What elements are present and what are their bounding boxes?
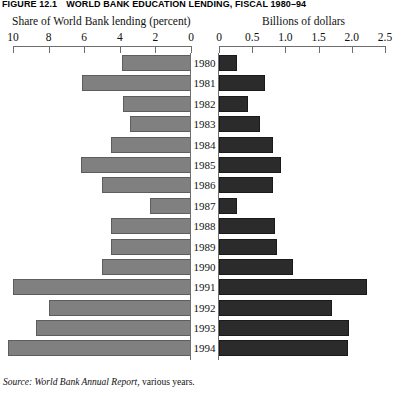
left-axis-tick [155,46,156,53]
bar-left-share-percent [111,239,191,255]
chart-row: 1993 [0,318,404,338]
chart-row: 1982 [0,94,404,114]
chart-row: 1984 [0,135,404,155]
left-axis-tick [191,46,192,53]
right-axis-tick [219,46,220,53]
bar-left-share-percent [81,157,191,173]
year-column-right-border [218,53,219,360]
bar-right-billions-of-dollars [219,75,265,91]
year-label: 1986 [190,175,219,195]
bar-right-billions-of-dollars [219,96,248,112]
bar-left-share-percent [82,75,191,91]
bar-right-billions-of-dollars [219,137,273,153]
chart-row: 1983 [0,114,404,134]
right-axis-tick [285,46,286,53]
bar-right-billions-of-dollars [219,177,273,193]
bar-left-share-percent [13,279,191,295]
left-axis-line [13,46,191,47]
bar-left-share-percent [130,116,191,132]
year-label: 1981 [190,73,219,93]
bar-right-billions-of-dollars [219,198,237,214]
bar-left-share-percent [102,259,191,275]
chart-row: 1985 [0,155,404,175]
bar-left-share-percent [122,55,191,71]
figure-title: FIGURE 12.1WORLD BANK EDUCATION LENDING,… [2,0,402,10]
right-axis-tick-label: 1.5 [311,30,325,44]
year-label: 1980 [190,53,219,73]
chart-row: 1981 [0,73,404,93]
source-note: Source: World Bank Annual Report, variou… [3,376,195,388]
year-column-left-border [190,53,191,360]
bar-right-billions-of-dollars [219,300,332,316]
year-label: 1987 [190,196,219,216]
bar-right-billions-of-dollars [219,279,367,295]
right-axis-tick-label: 2.5 [378,30,392,44]
right-panel-header: Billions of dollars [262,14,345,28]
bar-right-billions-of-dollars [219,259,293,275]
year-label: 1991 [190,277,219,297]
chart-row: 1992 [0,298,404,318]
chart-row: 1988 [0,216,404,236]
bar-left-share-percent [102,177,191,193]
bar-right-billions-of-dollars [219,157,281,173]
chart-row: 1986 [0,175,404,195]
right-axis-line [219,46,385,47]
right-axis-tick-label: 0 [216,30,222,44]
year-label: 1993 [190,318,219,338]
source-label: Source: [3,377,32,387]
year-label: 1992 [190,298,219,318]
left-axis-tick [84,46,85,53]
source-detail: , various years. [137,377,195,387]
right-axis-tick-label: 1.0 [278,30,292,44]
year-label: 1994 [190,338,219,358]
bar-right-billions-of-dollars [219,116,260,132]
left-axis-tick [13,46,14,53]
chart-row: 1989 [0,237,404,257]
right-axis-tick [319,46,320,53]
right-axis-tick [252,46,253,53]
right-axis-tick-labels: 00.51.01.52.02.5 [0,30,404,44]
year-label: 1984 [190,135,219,155]
bar-right-billions-of-dollars [219,320,349,336]
bar-right-billions-of-dollars [219,218,275,234]
chart-plot-area: 1980198119821983198419851986198719881989… [0,53,404,360]
bar-left-share-percent [8,340,191,356]
left-panel-header: Share of World Bank lending (percent) [12,14,191,28]
year-label: 1983 [190,114,219,134]
right-axis-tick [352,46,353,53]
bar-right-billions-of-dollars [219,55,237,71]
figure-number: FIGURE 12.1 [2,0,57,9]
bar-left-share-percent [36,320,191,336]
year-label: 1985 [190,155,219,175]
chart-row: 1991 [0,277,404,297]
right-axis-tick [385,46,386,53]
chart-row: 1990 [0,257,404,277]
chart-row: 1980 [0,53,404,73]
bar-left-share-percent [111,218,191,234]
year-label: 1989 [190,237,219,257]
figure-title-text: WORLD BANK EDUCATION LENDING, FISCAL 198… [66,0,306,9]
bar-right-billions-of-dollars [219,239,277,255]
bar-right-billions-of-dollars [219,340,348,356]
chart-row: 1994 [0,338,404,358]
year-label: 1990 [190,257,219,277]
chart-row: 1987 [0,196,404,216]
right-axis-tick-label: 2.0 [345,30,359,44]
bar-left-share-percent [150,198,191,214]
year-label: 1982 [190,94,219,114]
bar-left-share-percent [49,300,191,316]
bar-left-share-percent [111,137,191,153]
bar-left-share-percent [123,96,191,112]
source-title: World Bank Annual Report [35,377,138,387]
year-label: 1988 [190,216,219,236]
left-axis-tick [120,46,121,53]
left-axis-tick [49,46,50,53]
right-axis-tick-label: 0.5 [245,30,259,44]
